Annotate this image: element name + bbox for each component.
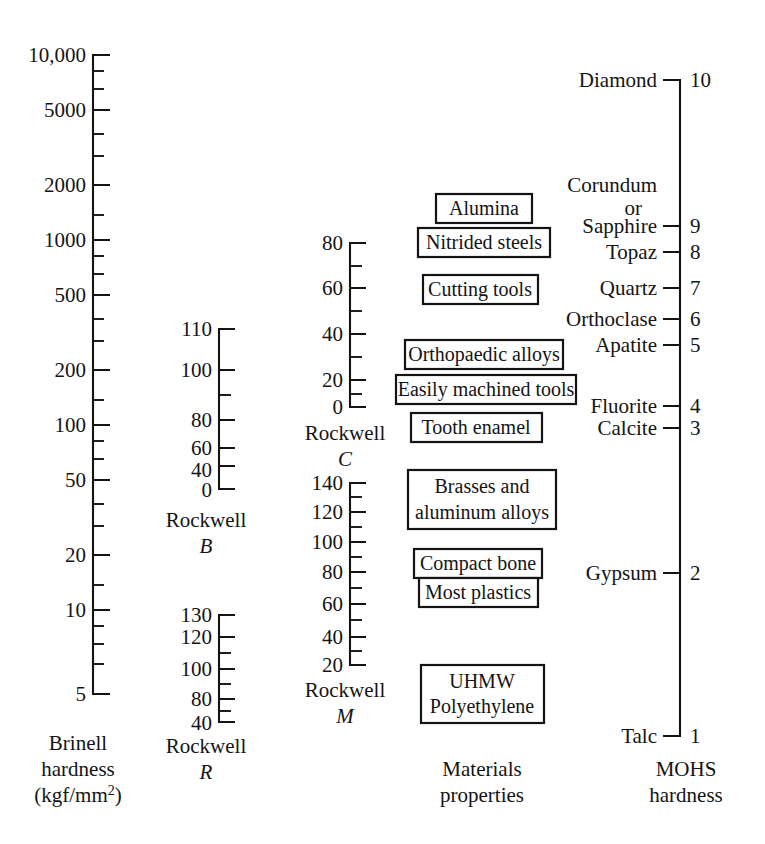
mohs-mineral-calcite: Calcite	[598, 416, 657, 440]
materials-caption-line1: Materials	[442, 757, 521, 781]
rockwell-b-label-60: 60	[191, 436, 212, 460]
axis-rockwell-m: 140 120 100 80 60 40 20 Rockwell M	[305, 471, 386, 728]
rockwell-m-label-100: 100	[312, 530, 344, 554]
brinell-label-100: 100	[55, 413, 87, 437]
rockwell-b-label-100: 100	[181, 358, 213, 382]
material-label-uhmw-line2: Polyethylene	[430, 695, 535, 718]
material-label-most-plastics: Most plastics	[425, 581, 531, 604]
mohs-value-7: 7	[690, 276, 701, 300]
mohs-value-1: 1	[690, 724, 701, 748]
material-label-orthopaedic-alloys: Orthopaedic alloys	[408, 343, 560, 366]
brinell-caption-line2: hardness	[41, 757, 114, 781]
material-box-most-plastics[interactable]: Most plastics	[419, 578, 538, 607]
rockwell-c-label-80: 80	[322, 231, 343, 255]
brinell-label-1000: 1000	[44, 228, 86, 252]
hardness-comparison-figure: 10,000 5000 2000 1000 500 200 100 50 20 …	[0, 0, 765, 844]
material-label-tooth-enamel: Tooth enamel	[421, 416, 531, 438]
material-label-uhmw-line1: UHMW	[449, 670, 515, 692]
mohs-caption-line2: hardness	[649, 783, 722, 807]
material-label-cutting-tools: Cutting tools	[428, 278, 532, 301]
chart-canvas: 10,000 5000 2000 1000 500 200 100 50 20 …	[0, 0, 765, 844]
material-box-tooth-enamel[interactable]: Tooth enamel	[411, 413, 542, 442]
axis-rockwell-c: 80 60 40 20 0 Rockwell C	[305, 231, 386, 471]
rockwell-m-label-40: 40	[322, 625, 343, 649]
mohs-value-8: 8	[690, 240, 701, 264]
mohs-mineral-corundum-line1: Corundum	[567, 173, 657, 197]
rockwell-m-label-80: 80	[322, 560, 343, 584]
rockwell-c-caption: Rockwell	[305, 421, 386, 445]
materials-caption-line2: properties	[440, 783, 524, 807]
material-label-brasses-line2: aluminum alloys	[415, 501, 549, 524]
axis-brinell: 10,000 5000 2000 1000 500 200 100 50 20 …	[28, 43, 122, 807]
brinell-label-500: 500	[55, 283, 87, 307]
mohs-value-4: 4	[690, 394, 701, 418]
rockwell-m-label-20: 20	[322, 653, 343, 677]
material-box-alumina[interactable]: Alumina	[436, 194, 532, 223]
material-box-cutting-tools[interactable]: Cutting tools	[423, 275, 538, 304]
rockwell-r-label-120: 120	[181, 625, 213, 649]
material-label-easily-machined-tools: Easily machined tools	[398, 378, 575, 401]
material-label-alumina: Alumina	[449, 197, 519, 219]
rockwell-r-label-130: 130	[181, 603, 213, 627]
rockwell-b-caption: Rockwell	[166, 508, 247, 532]
mohs-caption-line1: MOHS	[656, 757, 717, 781]
material-box-compact-bone[interactable]: Compact bone	[414, 549, 542, 578]
rockwell-r-caption: Rockwell	[166, 734, 247, 758]
rockwell-r-label-40: 40	[191, 711, 212, 735]
rockwell-c-label-60: 60	[322, 276, 343, 300]
mohs-mineral-fluorite: Fluorite	[591, 394, 658, 418]
rockwell-m-caption: Rockwell	[305, 678, 386, 702]
brinell-label-10000: 10,000	[28, 43, 86, 67]
mohs-value-3: 3	[690, 416, 701, 440]
material-box-nitrided-steels[interactable]: Nitrided steels	[418, 228, 550, 257]
mohs-mineral-quartz: Quartz	[600, 276, 657, 300]
rockwell-r-label-100: 100	[181, 657, 213, 681]
material-label-nitrided-steels: Nitrided steels	[426, 231, 542, 253]
rockwell-c-label-20: 20	[322, 368, 343, 392]
mohs-mineral-diamond: Diamond	[579, 68, 658, 92]
brinell-label-50: 50	[65, 468, 86, 492]
axis-rockwell-r: 130 120 100 80 40 Rockwell R	[166, 603, 247, 784]
mohs-mineral-gypsum: Gypsum	[586, 561, 657, 585]
mohs-value-10: 10	[690, 68, 711, 92]
materials-properties-group: Alumina Nitrided steels Cutting tools Or…	[396, 194, 576, 807]
axis-mohs: Diamond Corundum or Sapphire Topaz Quart…	[566, 68, 723, 807]
rockwell-m-label-140: 140	[312, 471, 344, 495]
mohs-mineral-apatite: Apatite	[595, 333, 657, 357]
rockwell-m-label-120: 120	[312, 500, 344, 524]
brinell-label-10: 10	[65, 598, 86, 622]
material-box-easily-machined-tools[interactable]: Easily machined tools	[396, 375, 576, 404]
mohs-mineral-orthoclase: Orthoclase	[566, 307, 657, 331]
mohs-value-2: 2	[690, 561, 701, 585]
rockwell-r-caption-symbol: R	[199, 760, 213, 784]
mohs-value-9: 9	[690, 214, 701, 238]
brinell-caption-line1: Brinell	[49, 731, 107, 755]
rockwell-c-caption-symbol: C	[338, 447, 353, 471]
rockwell-c-label-40: 40	[322, 322, 343, 346]
brinell-label-2000: 2000	[44, 173, 86, 197]
brinell-label-20: 20	[65, 543, 86, 567]
rockwell-m-label-60: 60	[322, 592, 343, 616]
brinell-label-200: 200	[55, 358, 87, 382]
rockwell-r-label-80: 80	[191, 687, 212, 711]
rockwell-b-label-80: 80	[191, 408, 212, 432]
mohs-value-6: 6	[690, 307, 701, 331]
mohs-value-5: 5	[690, 333, 701, 357]
rockwell-c-label-0: 0	[333, 395, 344, 419]
brinell-caption-line3: (kgf/mm2)	[34, 783, 122, 808]
material-box-orthopaedic-alloys[interactable]: Orthopaedic alloys	[405, 340, 563, 369]
rockwell-m-caption-symbol: M	[335, 704, 355, 728]
material-label-compact-bone: Compact bone	[420, 552, 536, 575]
material-box-uhmw-polyethylene[interactable]: UHMW Polyethylene	[421, 665, 544, 723]
rockwell-b-label-0: 0	[202, 478, 213, 502]
mohs-mineral-corundum-line3: Sapphire	[582, 214, 657, 238]
mohs-mineral-talc: Talc	[621, 724, 657, 748]
rockwell-b-caption-symbol: B	[200, 534, 213, 558]
axis-rockwell-b: 110 100 80 60 40 0 Rockwell B	[166, 317, 247, 558]
material-label-brasses-line1: Brasses and	[435, 475, 530, 497]
material-box-brasses-and-aluminum-alloys[interactable]: Brasses and aluminum alloys	[408, 470, 556, 529]
brinell-label-5: 5	[76, 682, 87, 706]
mohs-mineral-topaz: Topaz	[606, 240, 657, 264]
rockwell-b-label-110: 110	[181, 317, 212, 341]
brinell-label-5000: 5000	[44, 98, 86, 122]
